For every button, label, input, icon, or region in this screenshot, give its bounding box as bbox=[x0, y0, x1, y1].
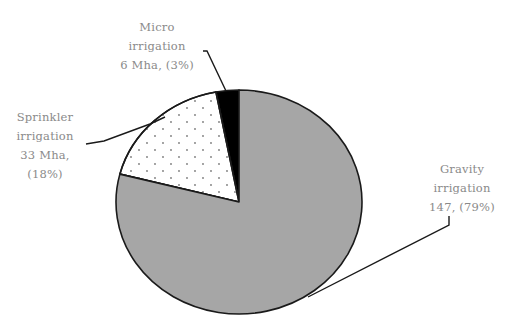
slice-label-micro-irrigation: Micro irrigation 6 Mha, (3%) bbox=[112, 18, 202, 75]
label-line: Gravity bbox=[412, 160, 512, 179]
label-line: irrigation bbox=[112, 37, 202, 56]
label-line: irrigation bbox=[6, 127, 84, 146]
pie-slices bbox=[116, 90, 362, 314]
leader-line-micro bbox=[203, 51, 226, 91]
label-line: irrigation bbox=[412, 179, 512, 198]
label-line: 6 Mha, (3%) bbox=[112, 56, 202, 75]
label-line: 147, (79%) bbox=[412, 198, 512, 217]
label-line: Sprinkler bbox=[6, 108, 84, 127]
label-line: Micro bbox=[112, 18, 202, 37]
label-line: 33 Mha, bbox=[6, 146, 84, 165]
slice-label-gravity-irrigation: Gravity irrigation 147, (79%) bbox=[412, 160, 512, 217]
slice-label-sprinkler-irrigation: Sprinkler irrigation 33 Mha, (18%) bbox=[6, 108, 84, 184]
label-line: (18%) bbox=[6, 165, 84, 184]
